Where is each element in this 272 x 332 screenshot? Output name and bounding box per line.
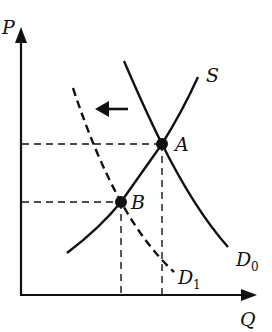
y-axis-label: P xyxy=(1,16,16,38)
reference-lines xyxy=(22,144,162,295)
demand-d1-label: D xyxy=(177,266,193,288)
left-arrow-icon xyxy=(95,101,128,117)
point-a xyxy=(156,138,168,150)
axes xyxy=(15,27,257,301)
point-b-label: B xyxy=(130,191,145,213)
x-axis-arrow-icon xyxy=(241,289,257,301)
demand-d1-subscript: 1 xyxy=(193,278,201,292)
demand-d0-label: D xyxy=(235,248,251,270)
supply-demand-diagram: P Q S A B D 0 D 1 xyxy=(0,0,272,332)
y-axis-arrow-icon xyxy=(15,27,27,43)
supply-label: S xyxy=(206,64,219,86)
demand-d0-subscript: 0 xyxy=(251,260,259,274)
x-axis-label: Q xyxy=(240,308,256,330)
point-a-label: A xyxy=(173,133,189,155)
supply-curve xyxy=(67,77,198,253)
point-b xyxy=(115,196,127,208)
demand-curve-d1 xyxy=(73,88,174,272)
